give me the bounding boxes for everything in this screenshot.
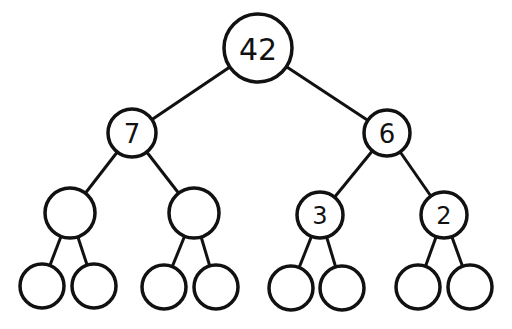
- tree-node: 3: [297, 192, 343, 238]
- node-circle: [72, 264, 116, 308]
- tree-node: [142, 265, 186, 309]
- tree-node: [194, 265, 238, 309]
- tree-node: 2: [421, 192, 467, 238]
- node-circle: [320, 266, 364, 310]
- tree-node: 7: [108, 109, 156, 157]
- tree-nodes: 427632: [20, 14, 492, 310]
- node-circle: [45, 188, 95, 238]
- tree-node: [396, 265, 440, 309]
- node-circle: [396, 265, 440, 309]
- node-circle: [142, 265, 186, 309]
- node-value-label: 3: [312, 202, 327, 230]
- node-circle: [169, 188, 219, 238]
- node-circle: [20, 264, 64, 308]
- tree-node: 42: [224, 14, 292, 82]
- tree-edges: [42, 48, 470, 288]
- tree-node: [45, 188, 95, 238]
- tree-node: [448, 265, 492, 309]
- node-circle: [448, 265, 492, 309]
- tree-node: 6: [364, 110, 410, 156]
- node-value-label: 2: [436, 202, 451, 230]
- node-value-label: 6: [379, 119, 396, 149]
- node-value-label: 42: [239, 32, 277, 67]
- tree-node: [20, 264, 64, 308]
- tree-node: [169, 188, 219, 238]
- tree-node: [72, 264, 116, 308]
- binary-tree-diagram: 427632: [0, 0, 512, 329]
- node-circle: [269, 266, 313, 310]
- tree-node: [320, 266, 364, 310]
- tree-node: [269, 266, 313, 310]
- node-circle: [194, 265, 238, 309]
- node-value-label: 7: [124, 119, 141, 149]
